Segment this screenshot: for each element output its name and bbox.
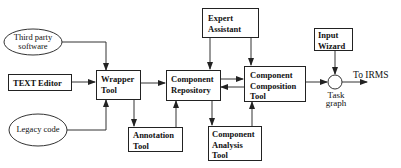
input-wizard-node: Input Wizard bbox=[314, 28, 353, 51]
expert-assistant-node: Expert Assistant bbox=[202, 8, 259, 38]
legacy-code-node: Legacy code bbox=[9, 114, 67, 146]
legacy-code-label: Legacy code bbox=[16, 125, 59, 135]
wrapper-tool-label-line1: Wrapper bbox=[101, 74, 136, 85]
analysis-label-line2: Analysis bbox=[212, 140, 258, 151]
annotation-tool-label-line2: Tool bbox=[133, 141, 178, 152]
wrapper-tool-label-line2: Tool bbox=[101, 85, 136, 96]
input-wizard-label-line1: Input bbox=[318, 30, 349, 41]
text-editor-label: TEXT Editor bbox=[13, 78, 62, 88]
annotation-tool-node: Annotation Tool bbox=[128, 127, 183, 152]
component-repository-node: Component Repository bbox=[166, 70, 221, 101]
third-party-software-node: Third party software bbox=[4, 29, 62, 55]
input-wizard-label-line2: Wizard bbox=[318, 41, 349, 52]
third-party-label-line2: software bbox=[14, 42, 52, 52]
edge-legacy-wrapper bbox=[67, 100, 106, 130]
composition-label-line1: Component bbox=[250, 70, 300, 81]
annotation-tool-label-line1: Annotation bbox=[133, 130, 178, 141]
component-analysis-tool-node: Component Analysis Tool bbox=[208, 126, 262, 161]
task-graph-label: Task graph bbox=[322, 91, 350, 107]
wrapper-tool-node: Wrapper Tool bbox=[96, 70, 141, 100]
composition-label-line3: Tool bbox=[250, 91, 300, 102]
component-repository-label-line2: Repository bbox=[171, 85, 216, 96]
task-graph-label-line2: graph bbox=[322, 99, 350, 107]
component-composition-tool-node: Component Composition Tool bbox=[244, 66, 306, 102]
to-irms-label: To IRMS bbox=[353, 70, 389, 80]
analysis-label-line1: Component bbox=[212, 129, 258, 140]
component-repository-label-line1: Component bbox=[171, 74, 216, 85]
expert-assistant-label-line1: Expert bbox=[208, 13, 253, 24]
analysis-label-line3: Tool bbox=[212, 150, 258, 161]
task-graph-circle bbox=[328, 75, 342, 89]
edge-thirdparty-wrapper bbox=[62, 42, 106, 70]
composition-label-line2: Composition bbox=[250, 81, 300, 92]
expert-assistant-label-line2: Assistant bbox=[208, 24, 253, 35]
text-editor-node: TEXT Editor bbox=[8, 74, 72, 91]
